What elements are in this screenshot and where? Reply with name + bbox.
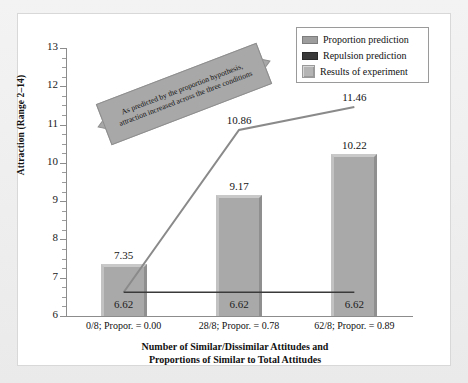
y-tick-minor: [62, 287, 66, 288]
y-tick-minor: [62, 77, 66, 78]
y-tick-label: 6: [34, 309, 58, 320]
y-tick-major: [60, 201, 66, 202]
bar-value-label-1: 7.35: [94, 249, 154, 261]
y-tick-minor: [62, 192, 66, 193]
y-tick-label: 10: [34, 156, 58, 167]
y-tick-minor: [62, 182, 66, 183]
legend-item-repulsion-prediction: Repulsion prediction: [302, 48, 424, 63]
legend-label-repulsion-prediction: Repulsion prediction: [323, 51, 407, 61]
proportion-value-label-3: 11.46: [320, 91, 388, 103]
repulsion-value-label-1: 6.62: [94, 298, 154, 310]
legend-swatch-repulsion-line-icon: [302, 52, 318, 60]
bar-value-label-3: 10.22: [324, 139, 384, 151]
y-tick-major: [60, 48, 66, 49]
y-tick-major: [60, 163, 66, 164]
bar-3: [331, 154, 377, 316]
y-tick-minor: [62, 220, 66, 221]
y-tick-minor: [62, 67, 66, 68]
x-axis-title-line1: Number of Similar/Dissimilar Attitudes a…: [40, 341, 430, 354]
repulsion-value-label-3: 6.62: [324, 298, 384, 310]
y-tick-label: 13: [34, 41, 58, 52]
proportion-value-label-2: 10.86: [205, 114, 273, 126]
legend-swatch-bar-icon: [302, 65, 315, 78]
repulsion-value-label-2: 6.62: [209, 298, 269, 310]
y-tick-minor: [62, 259, 66, 260]
y-tick-label: 8: [34, 232, 58, 243]
y-tick-major: [60, 86, 66, 87]
x-axis-title: Number of Similar/Dissimilar Attitudes a…: [40, 341, 430, 366]
y-tick-label: 11: [34, 118, 58, 129]
y-tick-minor: [62, 249, 66, 250]
bar-value-label-2: 9.17: [209, 180, 269, 192]
y-tick-label: 7: [34, 271, 58, 282]
x-tick-label-1: 0/8; Propor. = 0.00: [62, 320, 186, 331]
y-tick-major: [60, 316, 66, 317]
x-tick-label-3: 62/8; Propor. = 0.89: [292, 320, 416, 331]
y-tick-minor: [62, 268, 66, 269]
y-axis-title: Attraction (Range 2–14): [16, 40, 26, 210]
y-tick-major: [60, 239, 66, 240]
chart-figure: 678910111213 Attraction (Range 2–14) 7.3…: [0, 0, 468, 383]
x-tick-label-2: 28/8; Propor. = 0.78: [177, 320, 301, 331]
y-axis-line: [66, 48, 67, 317]
y-tick-minor: [62, 58, 66, 59]
y-tick-minor: [62, 297, 66, 298]
y-tick-minor: [62, 115, 66, 116]
y-tick-minor: [62, 105, 66, 106]
y-tick-label: 9: [34, 194, 58, 205]
y-tick-minor: [62, 230, 66, 231]
legend-label-proportion-prediction: Proportion prediction: [323, 35, 409, 45]
y-tick-minor: [62, 144, 66, 145]
chart-legend: Proportion prediction Repulsion predicti…: [296, 27, 429, 83]
y-tick-minor: [62, 96, 66, 97]
y-tick-minor: [62, 306, 66, 307]
x-axis-title-line2: Proportions of Similar to Total Attitude…: [40, 354, 430, 367]
y-tick-minor: [62, 211, 66, 212]
y-tick-major: [60, 278, 66, 279]
legend-label-results-of-experiment: Results of experiment: [320, 67, 408, 77]
y-tick-minor: [62, 172, 66, 173]
legend-item-results-of-experiment: Results of experiment: [302, 64, 424, 79]
y-tick-major: [60, 125, 66, 126]
legend-item-proportion-prediction: Proportion prediction: [302, 32, 424, 47]
y-tick-minor: [62, 153, 66, 154]
x-axis-line: [66, 316, 413, 317]
y-tick-label: 12: [34, 79, 58, 90]
y-tick-minor: [62, 134, 66, 135]
legend-swatch-proportion-line-icon: [302, 36, 318, 44]
